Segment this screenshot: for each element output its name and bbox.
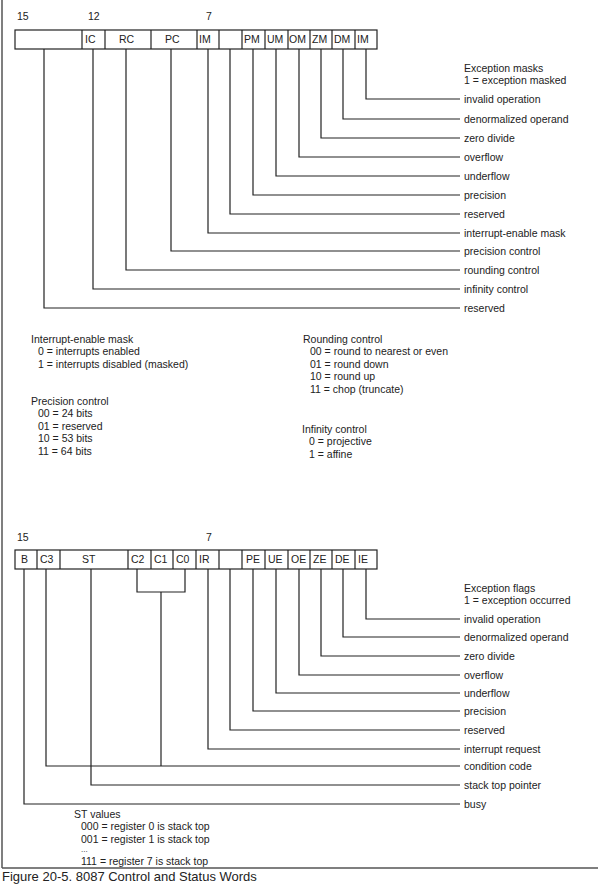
note-value: 111 = register 7 is stack top (74, 855, 210, 867)
note-value: 000 = register 0 is stack top (74, 820, 210, 832)
note-title: Interrupt-enable mask (31, 333, 188, 345)
status-bit-15: 15 (17, 531, 29, 543)
status-cell-oe: OE (291, 550, 306, 568)
note-rounding-control: Rounding control 00 = round to nearest o… (303, 333, 448, 395)
control-word-leaders (44, 49, 460, 308)
control-field-interrupt-enable-mask: interrupt-enable mask (464, 227, 566, 239)
note-value: 00 = round to nearest or even (303, 345, 448, 357)
control-field-rounding-control: rounding control (464, 264, 539, 276)
status-word-leaders (24, 569, 460, 804)
note-title: ST values (74, 808, 210, 820)
status-legend-title: Exception flags (464, 582, 535, 594)
figure-caption: Figure 20-5. 8087 Control and Status Wor… (2, 869, 257, 884)
note-value: 10 = 53 bits (31, 432, 109, 444)
note-value: 11 = chop (truncate) (303, 383, 448, 395)
control-legend-title: Exception masks (464, 62, 543, 74)
status-legend-subtitle: 1 = exception occurred (464, 594, 571, 606)
control-field-precision-control: precision control (464, 245, 540, 257)
status-field-overflow: overflow (464, 669, 503, 681)
control-cell-pm: PM (244, 30, 260, 48)
control-cell-rc: RC (119, 30, 134, 48)
note-value: 0 = projective (302, 435, 372, 447)
control-cell-ic: IC (85, 30, 96, 48)
note-st-values: ST values 000 = register 0 is stack top … (74, 808, 210, 868)
note-title: Rounding control (303, 333, 448, 345)
note-value: 1 = interrupts disabled (masked) (31, 358, 188, 370)
status-cell-c3: C3 (40, 550, 53, 568)
control-field-reserved-high: reserved (464, 302, 505, 314)
status-field-condition-code: condition code (464, 760, 532, 772)
note-value: 01 = reserved (31, 420, 109, 432)
status-cell-c1: C1 (154, 550, 167, 568)
control-cell-zm: ZM (312, 30, 327, 48)
control-cell-om: OM (289, 30, 306, 48)
status-cell-c0: C0 (176, 550, 189, 568)
control-field-reserved: reserved (464, 208, 505, 220)
status-field-interrupt-request: interrupt request (464, 743, 540, 755)
control-field-denormalized-operand: denormalized operand (464, 113, 569, 125)
status-cell-ue: UE (268, 550, 283, 568)
control-field-overflow: overflow (464, 151, 503, 163)
control-cell-dm: DM (334, 30, 350, 48)
status-cell-st: ST (82, 550, 95, 568)
status-cell-ie: IE (358, 550, 368, 568)
control-legend-subtitle: 1 = exception masked (464, 74, 566, 86)
status-field-zero-divide: zero divide (464, 650, 515, 662)
status-bit-7: 7 (206, 531, 212, 543)
note-title: Infinity control (302, 423, 372, 435)
status-cell-de: DE (335, 550, 350, 568)
control-cell-um: UM (267, 30, 283, 48)
status-field-precision: precision (464, 705, 506, 717)
status-cell-b: B (21, 550, 28, 568)
control-bit-7: 7 (206, 10, 212, 22)
note-value: 00 = 24 bits (31, 407, 109, 419)
note-infinity-control: Infinity control 0 = projective 1 = affi… (302, 423, 372, 460)
note-interrupt-enable-mask: Interrupt-enable mask 0 = interrupts ena… (31, 333, 188, 370)
status-field-busy: busy (464, 798, 486, 810)
note-ellipsis: ... (74, 845, 210, 855)
status-cell-ze: ZE (313, 550, 326, 568)
note-title: Precision control (31, 395, 109, 407)
control-cell-im-invalid: IM (357, 30, 369, 48)
control-bit-12: 12 (88, 10, 100, 22)
note-value: 01 = round down (303, 358, 448, 370)
note-precision-control: Precision control 00 = 24 bits 01 = rese… (31, 395, 109, 457)
note-value: 1 = affine (302, 448, 372, 460)
note-value: 11 = 64 bits (31, 445, 109, 457)
control-field-underflow: underflow (464, 170, 510, 182)
control-field-zero-divide: zero divide (464, 132, 515, 144)
control-field-invalid-operation: invalid operation (464, 93, 540, 105)
status-cell-c2: C2 (131, 550, 144, 568)
status-cell-pe: PE (246, 550, 260, 568)
status-cell-ir: IR (199, 550, 210, 568)
status-field-reserved: reserved (464, 724, 505, 736)
note-value: 001 = register 1 is stack top (74, 833, 210, 845)
status-field-invalid-operation: invalid operation (464, 613, 540, 625)
control-field-precision: precision (464, 189, 506, 201)
control-bit-15: 15 (17, 10, 29, 22)
control-field-infinity-control: infinity control (464, 283, 528, 295)
status-field-stack-top-pointer: stack top pointer (464, 779, 541, 791)
status-field-denormalized-operand: denormalized operand (464, 631, 569, 643)
control-cell-im: IM (199, 30, 211, 48)
note-value: 0 = interrupts enabled (31, 345, 188, 357)
note-value: 10 = round up (303, 370, 448, 382)
status-field-underflow: underflow (464, 687, 510, 699)
control-cell-pc: PC (165, 30, 180, 48)
